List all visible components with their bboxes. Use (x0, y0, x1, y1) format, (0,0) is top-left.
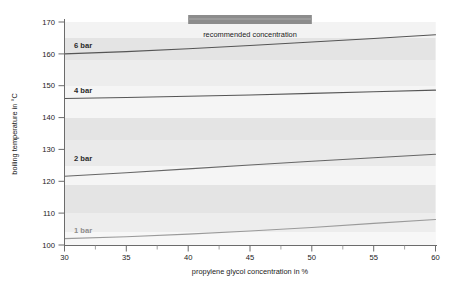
y-axis-label: boiling temperature in °C (10, 93, 19, 175)
y-tick-label-170: 170 (42, 18, 55, 27)
band-133-140 (65, 118, 436, 140)
band-100-104 (65, 232, 436, 245)
recommended-concentration-marker (188, 15, 312, 24)
series-label-4bar: 4 bar (74, 86, 92, 95)
x-tick-label-30: 30 (60, 253, 68, 262)
y-tick-label-150: 150 (42, 81, 55, 90)
y-tick-label-160: 160 (42, 50, 55, 59)
band-110-119 (65, 185, 436, 213)
x-tick-label-35: 35 (122, 253, 130, 262)
x-tick-label-55: 55 (369, 253, 377, 262)
series-label-1bar: 1 bar (74, 226, 92, 235)
x-tick-labels: 30 35 40 45 50 55 60 (60, 253, 439, 262)
y-ticks (59, 22, 65, 245)
boiling-temperature-chart: 170 160 150 140 130 120 110 100 (0, 0, 454, 281)
recommended-concentration-bar-highlight (188, 18, 312, 20)
x-tick-label-45: 45 (246, 253, 254, 262)
x-tick-label-40: 40 (184, 253, 192, 262)
plot-bands (65, 22, 436, 245)
y-tick-labels: 170 160 150 140 130 120 110 100 (42, 18, 55, 250)
series-label-6bar: 6 bar (74, 41, 92, 50)
x-tick-label-60: 60 (431, 253, 439, 262)
x-ticks (65, 246, 436, 252)
y-tick-label-100: 100 (42, 241, 55, 250)
series-label-2bar: 2 bar (74, 154, 92, 163)
x-tick-label-50: 50 (308, 253, 316, 262)
band-125-133 (65, 140, 436, 166)
x-axis-label: propylene glycol concentration in % (192, 267, 309, 276)
band-158-165 (65, 38, 436, 60)
band-119-125 (65, 166, 436, 185)
band-150-158 (65, 60, 436, 86)
y-tick-label-120: 120 (42, 177, 55, 186)
recommended-concentration-label: recommended concentration (203, 30, 297, 39)
y-tick-label-140: 140 (42, 113, 55, 122)
y-tick-label-130: 130 (42, 145, 55, 154)
chart-svg: 170 160 150 140 130 120 110 100 (0, 0, 454, 281)
band-140-150 (65, 86, 436, 118)
y-tick-label-110: 110 (43, 209, 55, 218)
